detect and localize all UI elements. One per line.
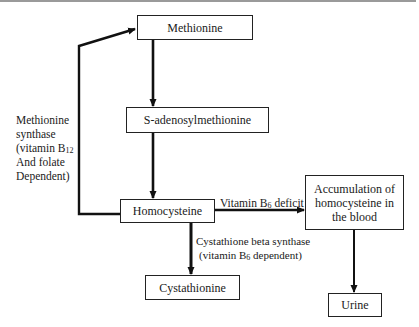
label-methionine-synthase-line3: (vitamin B12 (16, 141, 74, 155)
node-cystathionine-label: Cystathionine (159, 281, 226, 295)
label-methionine-synthase-line4: And folate (16, 155, 74, 169)
node-urine: Urine (328, 293, 382, 317)
label-b6-deficit: Vitamin B6 deficit (220, 196, 304, 210)
label-methionine-synthase-line5: Dependent) (16, 169, 74, 183)
label-b6-deficit-suffix: deficit (272, 197, 304, 209)
node-accumulation-line1: Accumulation of (314, 182, 395, 196)
label-cbs-line1: Cystathione beta synthase (196, 234, 310, 248)
label-cbs-line2-prefix: (vitamin B (199, 249, 246, 261)
label-cbs-line2-suffix: dependent) (250, 249, 302, 261)
label-methionine-synthase-line1: Methionine (16, 113, 74, 127)
label-methionine-synthase-line2: synthase (16, 127, 74, 141)
node-methionine: Methionine (137, 15, 253, 40)
node-urine-label: Urine (341, 298, 368, 312)
node-accumulation: Accumulation of homocysteine in the bloo… (305, 175, 404, 230)
label-cbs: Cystathione beta synthase (vitamin B6 de… (196, 234, 310, 262)
label-cbs-line2: (vitamin B6 dependent) (196, 248, 310, 262)
label-ms-line3-sub: 12 (66, 146, 74, 155)
node-accumulation-line3: the blood (332, 210, 377, 224)
node-accumulation-line2: homocysteine in (315, 196, 394, 210)
node-homocysteine: Homocysteine (120, 199, 215, 223)
node-s-adenosylmethionine: S-adenosylmethionine (126, 107, 269, 133)
label-ms-line3-text: (vitamin B (16, 142, 66, 154)
node-sam-label: S-adenosylmethionine (144, 113, 251, 127)
node-cystathionine: Cystathionine (145, 275, 240, 300)
node-homocysteine-label: Homocysteine (133, 204, 202, 218)
node-methionine-label: Methionine (167, 21, 222, 35)
label-b6-deficit-prefix: Vitamin B (220, 197, 268, 209)
label-methionine-synthase: Methionine synthase (vitamin B12 And fol… (16, 113, 74, 183)
